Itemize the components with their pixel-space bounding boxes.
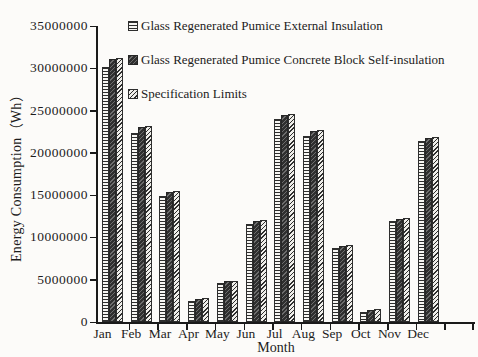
bar xyxy=(102,67,109,322)
bar xyxy=(418,141,425,322)
y-axis-tick xyxy=(90,152,96,154)
y-axis-tick xyxy=(90,195,96,197)
bar xyxy=(188,301,195,322)
bar xyxy=(253,221,260,322)
bar xyxy=(346,245,353,322)
bar xyxy=(374,309,381,322)
bar xyxy=(281,115,288,322)
x-axis-category-label: Dec xyxy=(401,326,435,342)
y-axis-tick xyxy=(90,68,96,70)
bar xyxy=(246,224,253,322)
bar xyxy=(173,191,180,322)
bar xyxy=(195,299,202,322)
legend-label: Glass Regenerated Pumice Concrete Block … xyxy=(141,52,445,68)
bar xyxy=(339,246,346,322)
y-axis-tick xyxy=(90,237,96,239)
bar xyxy=(396,219,403,322)
x-axis-tick xyxy=(472,324,474,330)
x-axis-tick xyxy=(444,324,446,330)
legend-item-specification-limits: Specification Limits xyxy=(128,86,473,120)
bar xyxy=(109,59,116,322)
y-axis-tick-label: 10000000 xyxy=(24,229,88,245)
bar xyxy=(360,312,367,322)
bar xyxy=(166,192,173,322)
bar xyxy=(432,137,439,322)
legend-item-external-insulation: Glass Regenerated Pumice External Insula… xyxy=(128,18,473,52)
x-axis-title: Month xyxy=(226,340,326,356)
y-axis-tick-label: 0 xyxy=(24,314,88,330)
bar xyxy=(425,138,432,322)
y-axis-tick xyxy=(90,26,96,28)
horizontal-stripes-swatch-icon xyxy=(128,21,138,31)
bar xyxy=(367,310,374,322)
bar xyxy=(138,127,145,322)
bar xyxy=(231,281,238,322)
y-axis-tick-label: 30000000 xyxy=(24,60,88,76)
bar xyxy=(288,114,295,322)
bar xyxy=(217,283,224,322)
chart-figure: Energy Consumption（Wh） Month Glass Regen… xyxy=(0,0,478,357)
y-axis-tick xyxy=(90,279,96,281)
bar xyxy=(303,136,310,322)
y-axis-tick-label: 35000000 xyxy=(24,18,88,34)
y-axis-tick-label: 15000000 xyxy=(24,187,88,203)
bar xyxy=(145,126,152,322)
bar xyxy=(224,281,231,322)
y-axis-tick xyxy=(90,110,96,112)
dark-solid-swatch-icon xyxy=(128,55,138,65)
y-axis-tick xyxy=(90,322,96,324)
y-axis-title: Energy Consumption（Wh） xyxy=(5,25,25,325)
legend-item-self-insulation: Glass Regenerated Pumice Concrete Block … xyxy=(128,52,473,86)
diagonal-hatch-swatch-icon xyxy=(128,89,138,99)
bar xyxy=(389,221,396,322)
bar xyxy=(310,131,317,322)
legend: Glass Regenerated Pumice External Insula… xyxy=(128,18,473,120)
y-axis-tick-label: 20000000 xyxy=(24,145,88,161)
bar xyxy=(274,119,281,322)
bar xyxy=(317,130,324,322)
y-axis-tick-label: 5000000 xyxy=(24,272,88,288)
y-axis-tick-label: 25000000 xyxy=(24,103,88,119)
bar xyxy=(131,133,138,322)
legend-label: Specification Limits xyxy=(141,86,247,102)
legend-label: Glass Regenerated Pumice External Insula… xyxy=(141,18,383,34)
bar xyxy=(202,298,209,322)
bar xyxy=(159,196,166,322)
bar xyxy=(260,220,267,322)
bar xyxy=(116,58,123,322)
bar xyxy=(403,218,410,322)
bar xyxy=(332,248,339,322)
